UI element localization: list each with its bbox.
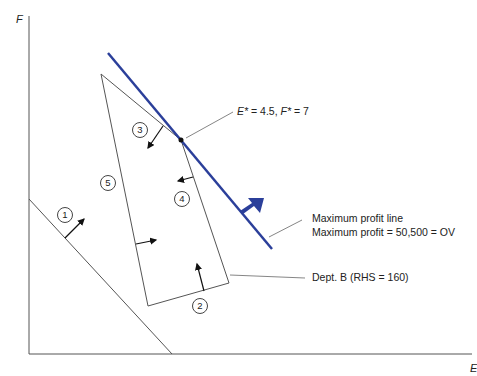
x-axis-label: E: [470, 362, 477, 374]
constraint-2-marker: 2: [192, 298, 208, 314]
f-value: = 7: [291, 105, 309, 117]
dept-b-label: Dept. B (RHS = 160): [312, 271, 409, 284]
max-profit-label: Maximum profit = 50,500 = OV: [312, 226, 455, 239]
constraint-1-marker: 1: [57, 207, 73, 223]
direction-arrow-icon: [240, 198, 264, 214]
y-axis-label: F: [16, 13, 23, 25]
e-star: E*: [237, 105, 248, 117]
constraint-1-line: [29, 199, 172, 354]
constraint-5-marker: 5: [100, 175, 116, 191]
constraint-3-marker: 3: [132, 122, 148, 138]
optimum-label: E* = 4.5, F* = 7: [237, 105, 309, 118]
optimum-point: [179, 138, 184, 143]
profit-line-label: Maximum profit line: [312, 212, 403, 225]
max-profit-line: [108, 53, 272, 249]
e-value: = 4.5,: [248, 105, 280, 117]
constraint-4-marker: 4: [174, 191, 190, 207]
f-star: F*: [281, 105, 292, 117]
feasible-region: [101, 74, 229, 306]
